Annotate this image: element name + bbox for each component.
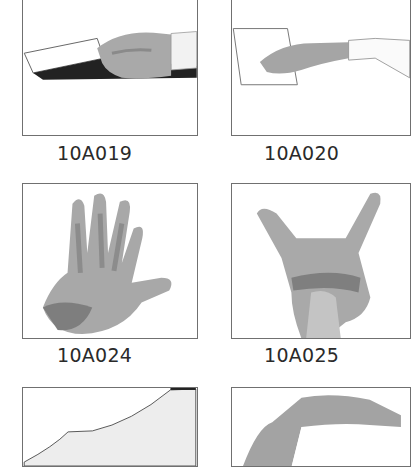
catalog-item-partial-right[interactable] [231,387,411,467]
item-code-label: 10A025 [264,344,339,366]
hand-holding-card-illustration [23,0,197,135]
catalog-item-10A024[interactable] [22,183,198,339]
forearm-edge-illustration [23,388,197,466]
pointing-hand-illustration [232,184,410,338]
catalog-item-10A025[interactable] [231,183,411,339]
bent-arm-illustration [232,388,410,466]
item-code-label: 10A020 [264,142,339,164]
catalog-item-partial-left[interactable] [22,387,198,467]
item-code-label: 10A024 [57,344,132,366]
catalog-item-10A019[interactable] [22,0,198,136]
hand-reaching-paper-illustration [232,0,410,135]
open-hand-illustration [23,184,197,338]
item-code-label: 10A019 [57,142,132,164]
catalog-item-10A020[interactable] [231,0,411,136]
